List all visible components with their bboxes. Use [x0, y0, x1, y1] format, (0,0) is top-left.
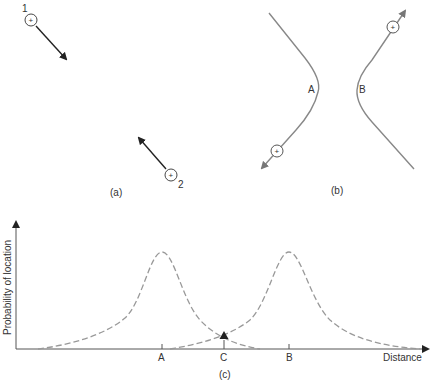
particle-b2-plus-icon: + — [391, 23, 396, 32]
particle-1-label: 1 — [22, 3, 28, 14]
particle-b1-plus-icon: + — [275, 147, 280, 156]
vertex-b-label: B — [359, 84, 366, 95]
tick-label-a: A — [158, 352, 165, 363]
tick-label-c: C — [220, 352, 227, 363]
particle-2-velocity-arrow-icon — [139, 138, 166, 169]
particle-1-plus-icon: + — [29, 16, 34, 25]
probability-curve-a — [38, 252, 260, 349]
probability-curve-b — [170, 252, 420, 349]
particle-2-plus-icon: + — [169, 171, 174, 180]
panel-a-caption: (a) — [110, 187, 122, 198]
particle-2: + 2 — [139, 138, 184, 190]
tick-label-b: B — [286, 352, 293, 363]
particle-1: 1 + — [22, 3, 66, 59]
vertex-a-label: A — [308, 84, 315, 95]
x-axis-label: Distance — [383, 352, 422, 363]
panel-c-caption: (c) — [219, 369, 231, 380]
panel-b-caption: (b) — [331, 185, 343, 196]
panel-c: Probability of location Distance A C B (… — [2, 222, 428, 380]
y-axis-label: Probability of location — [2, 240, 13, 335]
crossing-marker-arrow-icon — [220, 331, 229, 339]
particle-2-label: 2 — [178, 179, 184, 190]
panel-b: + A + B (b) — [262, 11, 414, 196]
particle-1-velocity-arrow-icon — [36, 26, 66, 59]
panel-a: 1 + + 2 (a) — [22, 3, 184, 198]
figure-canvas: 1 + + 2 (a) + A + B (b) Probability of l… — [0, 0, 437, 386]
